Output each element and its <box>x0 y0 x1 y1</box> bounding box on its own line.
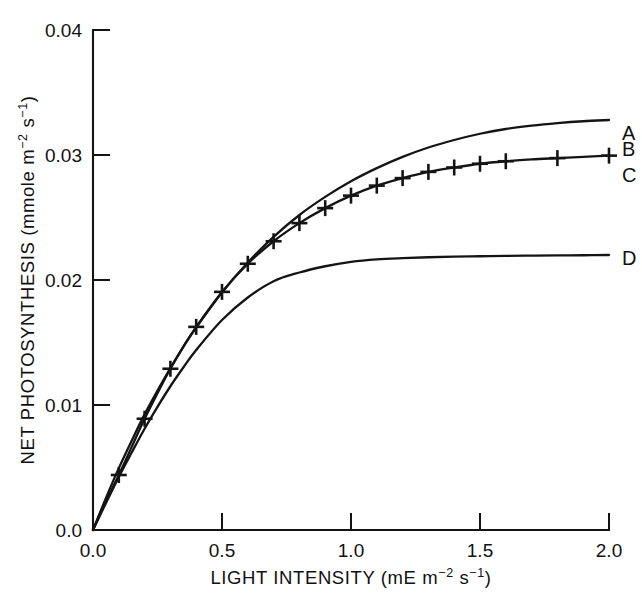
curve-A <box>93 120 609 530</box>
marker-plus-B <box>420 164 436 180</box>
marker-plus-B <box>317 200 333 216</box>
y-axis-ticks <box>93 30 110 405</box>
figure-canvas: 0.00.010.020.030.04 0.00.51.01.52.0 ABCD… <box>0 0 642 599</box>
x-axis-title-mid: s <box>454 567 470 588</box>
x-axis-title: LIGHT INTENSITY (mE m−2 s−1) <box>210 566 491 588</box>
marker-plus-B <box>369 178 385 194</box>
curve-label-B: B <box>622 138 635 160</box>
y-axis-title: NET PHOTOSYNTHESIS (mmole m−2 s−1) <box>16 96 38 465</box>
x-axis-title-tail: ) <box>485 567 492 588</box>
marker-plus-B <box>472 156 488 172</box>
x-axis-title-lead: LIGHT INTENSITY (mE m <box>210 567 438 588</box>
data-curves <box>93 120 609 530</box>
y-axis-title-sup1: −2 <box>16 133 30 148</box>
y-tick-label: 0.04 <box>45 20 82 41</box>
marker-plus-B <box>343 188 359 204</box>
curve-C <box>93 156 609 530</box>
x-tick-label: 0.5 <box>209 540 235 561</box>
marker-plus-B <box>291 215 307 231</box>
y-axis-tick-labels: 0.00.010.020.030.04 <box>45 20 82 541</box>
y-tick-label: 0.02 <box>45 270 82 291</box>
marker-plus-B <box>162 361 178 377</box>
marker-plus-B <box>549 150 565 166</box>
photosynthesis-light-response-chart: 0.00.010.020.030.04 0.00.51.01.52.0 ABCD… <box>0 0 642 599</box>
y-tick-label: 0.03 <box>45 145 82 166</box>
axes-spines <box>93 30 609 530</box>
x-tick-label: 1.5 <box>467 540 493 561</box>
curve-label-C: C <box>622 164 636 186</box>
marker-plus-B <box>395 170 411 186</box>
y-axis-title-lead: NET PHOTOSYNTHESIS (mmole m <box>17 149 38 465</box>
x-axis-tick-labels: 0.00.51.01.52.0 <box>80 540 622 561</box>
y-tick-label: 0.01 <box>45 395 82 416</box>
data-markers <box>111 148 617 483</box>
curve-D <box>93 255 609 530</box>
x-axis-title-sup1: −2 <box>438 566 453 580</box>
marker-plus-B <box>601 148 617 164</box>
y-tick-label: 0.0 <box>56 520 82 541</box>
y-axis-title-mid: s <box>17 118 38 134</box>
x-tick-label: 2.0 <box>596 540 622 561</box>
x-tick-label: 1.0 <box>338 540 364 561</box>
marker-plus-B <box>446 160 462 176</box>
curve-end-labels: ABCD <box>622 122 636 269</box>
x-axis-ticks <box>222 513 609 530</box>
y-axis-title-sup2: −1 <box>16 102 30 117</box>
x-tick-label: 0.0 <box>80 540 106 561</box>
x-axis-title-sup2: −1 <box>469 566 484 580</box>
marker-plus-B <box>498 153 514 169</box>
curve-label-D: D <box>622 247 636 269</box>
y-axis-title-tail: ) <box>17 96 38 103</box>
